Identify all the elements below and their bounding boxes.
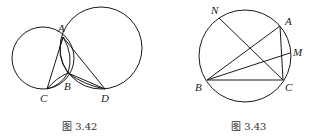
label-a: A [284,15,292,27]
label-b: B [195,81,202,93]
label-n: N [210,4,219,16]
label-b: B [64,80,71,92]
label-c: C [285,81,293,93]
label-a: A [57,22,65,34]
caption-3-43: 图 3.43 [231,121,266,132]
figure-3-43: N A M B C 图 3.43 [195,4,303,132]
segment-bm [207,53,290,80]
label-d: D [100,92,109,104]
caption-3-42: 图 3.42 [62,121,97,132]
segment-ba [207,26,280,80]
label-m: M [292,46,303,58]
figure-canvas: A B C D 图 3.42 N A M B C 图 3.43 [0,0,317,140]
figure-3-42: A B C D 图 3.42 [12,7,142,132]
circumcircle [199,10,291,102]
segment-ac [280,26,283,80]
segment-nc [219,18,283,80]
label-c: C [40,92,48,104]
